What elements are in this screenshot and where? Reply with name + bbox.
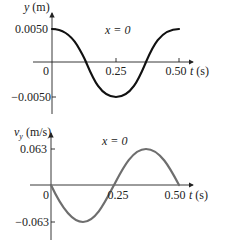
x-axis-label: t (s) <box>189 188 208 202</box>
xtick-label-025: 0.25 <box>108 188 129 202</box>
x-axis-label: t (s) <box>190 64 209 78</box>
ytick-label-neg: −0.0050 <box>11 90 51 104</box>
ytick-label-pos: 0.063 <box>20 142 47 156</box>
velocity-chart: vy (m/s) 0.063 −0.063 0 0.25 0.50 t (s) … <box>14 125 208 240</box>
xtick-label-025: 0.25 <box>106 64 127 78</box>
xtick-label-0: 0 <box>43 188 49 202</box>
xtick-label-0: 0 <box>43 64 49 78</box>
figure: y (m) 0.0050 −0.0050 0 0.25 0.50 t (s) x… <box>0 0 225 252</box>
displacement-curve <box>52 29 179 97</box>
annotation-x0: x = 0 <box>101 134 127 148</box>
xtick-label-050: 0.50 <box>166 64 187 78</box>
y-axis-label: vy (m/s) <box>14 125 51 141</box>
ytick-label-pos: 0.0050 <box>15 22 48 36</box>
velocity-curve <box>51 149 179 222</box>
ytick-label-neg: −0.063 <box>15 215 49 229</box>
xtick-label-050: 0.50 <box>165 188 186 202</box>
y-axis-label: y (m) <box>23 0 50 14</box>
annotation-x0: x = 0 <box>104 23 130 37</box>
displacement-chart: y (m) 0.0050 −0.0050 0 0.25 0.50 t (s) x… <box>11 0 209 114</box>
